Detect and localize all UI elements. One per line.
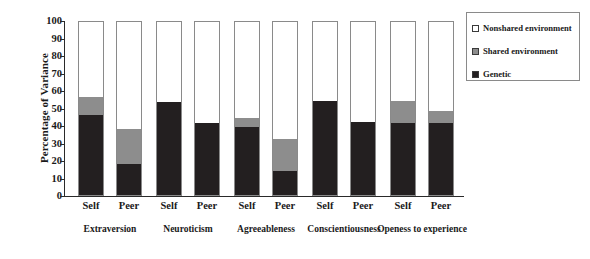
- legend-item-label: Nonshared environment: [483, 24, 572, 33]
- bar-segment-genetic: [273, 171, 297, 196]
- y-axis-tick-mark: [60, 144, 65, 145]
- x-axis-bar-labels: SelfPeerSelfPeerSelfPeerSelfPeerSelfPeer: [66, 200, 466, 218]
- y-axis-tick-mark: [60, 91, 65, 92]
- y-axis-tick-label: 0: [36, 191, 62, 202]
- y-axis-tick-mark: [60, 21, 65, 22]
- legend-item: Genetic: [472, 68, 511, 80]
- variance-stacked-bar-chart: Percentage of Variance 10090807060504030…: [0, 0, 590, 259]
- bar: [78, 21, 104, 196]
- legend-swatch-icon: [472, 71, 479, 78]
- bar-segment-genetic: [391, 123, 415, 195]
- bar-segment-genetic: [235, 127, 259, 195]
- bar-segment-shared: [235, 118, 259, 127]
- legend-item-label: Shared environment: [483, 47, 558, 56]
- bar-segment-genetic: [195, 123, 219, 195]
- y-axis-tick-mark: [60, 196, 65, 197]
- bar-segment-genetic: [429, 123, 453, 195]
- bars-layer: [66, 21, 462, 196]
- bar: [272, 21, 298, 196]
- y-axis-tick-mark: [60, 179, 65, 180]
- y-axis-tick-label: 50: [36, 103, 62, 114]
- y-axis-tick-label: 40: [36, 121, 62, 132]
- legend-item-label: Genetic: [483, 70, 511, 79]
- y-axis-tick-marks: [60, 21, 65, 196]
- bar: [116, 21, 142, 196]
- bar: [428, 21, 454, 196]
- x-axis-group-label: Openess to experience: [362, 224, 482, 234]
- bar: [350, 21, 376, 196]
- bar-segment-shared: [429, 111, 453, 123]
- bar-segment-shared: [79, 97, 103, 115]
- bar-segment-genetic: [79, 115, 103, 196]
- y-axis-tick-mark: [60, 126, 65, 127]
- bar: [234, 21, 260, 196]
- x-axis-bar-label: Peer: [418, 200, 464, 211]
- bar-segment-genetic: [351, 122, 375, 196]
- y-axis-tick-labels: 1009080706050403020100: [36, 21, 62, 196]
- y-axis-tick-mark: [60, 109, 65, 110]
- y-axis-tick-label: 100: [36, 16, 62, 27]
- bar-segment-shared: [273, 139, 297, 171]
- legend-swatch-icon: [472, 48, 479, 55]
- bar-segment-genetic: [157, 102, 181, 195]
- legend: Nonshared environmentShared environmentG…: [466, 12, 580, 81]
- y-axis-tick-mark: [60, 39, 65, 40]
- bar: [312, 21, 338, 196]
- y-axis-tick-label: 20: [36, 156, 62, 167]
- plot-area: [66, 21, 462, 196]
- y-axis-tick-mark: [60, 161, 65, 162]
- bar-segment-genetic: [313, 101, 337, 196]
- bar: [194, 21, 220, 196]
- y-axis-tick-label: 90: [36, 33, 62, 44]
- legend-item: Nonshared environment: [472, 22, 572, 34]
- y-axis-tick-label: 70: [36, 68, 62, 79]
- legend-item: Shared environment: [472, 45, 558, 57]
- bar-segment-genetic: [117, 164, 141, 196]
- bar: [156, 21, 182, 196]
- y-axis-tick-label: 10: [36, 173, 62, 184]
- bar-segment-shared: [391, 101, 415, 124]
- y-axis-tick-mark: [60, 56, 65, 57]
- y-axis-tick-label: 30: [36, 138, 62, 149]
- bar-segment-shared: [117, 129, 141, 164]
- bar: [390, 21, 416, 196]
- y-axis-tick-label: 60: [36, 86, 62, 97]
- y-axis-tick-mark: [60, 74, 65, 75]
- x-axis-group-labels: ExtraversionNeuroticismAgreeablenessCons…: [56, 224, 476, 242]
- y-axis-tick-label: 80: [36, 51, 62, 62]
- legend-swatch-icon: [472, 25, 479, 32]
- x-axis-line: [64, 196, 464, 197]
